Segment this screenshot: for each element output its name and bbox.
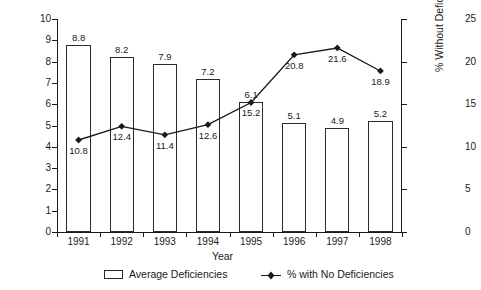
line-marker-diamond-icon (377, 68, 384, 75)
line-value-label: 20.8 (274, 61, 314, 71)
line-value-label: 15.2 (231, 108, 271, 118)
line-marker-diamond-icon (205, 121, 212, 128)
y-axis-left-tick-label: 0 (31, 227, 51, 237)
y-axis-right-tick-label: 0 (465, 227, 481, 237)
legend-label-percent-no-deficiencies: % with No Deficiencies (287, 268, 394, 280)
line-marker-diamond-icon (118, 123, 125, 130)
legend-label-average-deficiencies: Average Deficiencies (129, 268, 227, 280)
line-value-label: 21.6 (317, 54, 357, 64)
y-axis-left-tick-label: 2 (31, 184, 51, 194)
y-axis-left-tick-label: 10 (31, 14, 51, 24)
line-series (57, 19, 402, 233)
line-value-label: 12.6 (188, 131, 228, 141)
y-axis-right-tick-label: 20 (465, 57, 481, 67)
x-axis-tick-label: 1994 (185, 236, 231, 247)
x-axis-tick-label: 1991 (56, 236, 102, 247)
y-axis-left-tick-label: 9 (31, 35, 51, 45)
line-value-label: 18.9 (360, 77, 400, 87)
y-axis-right-tick-label: 25 (465, 14, 481, 24)
legend-bar-swatch-icon (104, 270, 123, 279)
legend-item-average-deficiencies[interactable]: Average Deficiencies (104, 268, 227, 280)
y-axis-left-tick-label: 7 (31, 78, 51, 88)
chart-legend: Average Deficiencies % with No Deficienc… (0, 266, 445, 286)
line-marker-diamond-icon (161, 131, 168, 138)
legend-line-diamond-icon (261, 270, 281, 279)
y-axis-left-tick-label: 3 (31, 163, 51, 173)
line-marker-diamond-icon (334, 45, 341, 52)
legend-item-percent-no-deficiencies[interactable]: % with No Deficiencies (261, 268, 394, 280)
y-axis-left-tick-label: 4 (31, 142, 51, 152)
x-axis-tick-label: 1997 (314, 236, 360, 247)
y-axis-right-title: % Without Deficiency (433, 0, 445, 72)
y-axis-right-tick-label: 15 (465, 99, 481, 109)
y-axis-left-tick-label: 6 (31, 99, 51, 109)
y-axis-left-tick-label: 1 (31, 206, 51, 216)
y-axis-left-tick-label: 8 (31, 57, 51, 67)
line-value-label: 11.4 (145, 141, 185, 151)
x-axis-tick-label: 1998 (357, 236, 403, 247)
line-value-label: 10.8 (59, 146, 99, 156)
y-axis-right-tick-label: 5 (465, 184, 481, 194)
y-axis-left-tick-label: 5 (31, 121, 51, 131)
x-axis-tick-label: 1996 (271, 236, 317, 247)
x-axis-tick-label: 1992 (99, 236, 145, 247)
plot-area: 012345678910 0510152025 8.88.27.97.26.15… (57, 19, 402, 233)
x-axis-title: Year (0, 250, 445, 262)
line-marker-diamond-icon (75, 137, 82, 144)
line-value-label: 12.4 (102, 132, 142, 142)
x-axis-tick-label: 1995 (228, 236, 274, 247)
y-axis-right-tick-label: 10 (465, 142, 481, 152)
x-axis-tick-label: 1993 (142, 236, 188, 247)
